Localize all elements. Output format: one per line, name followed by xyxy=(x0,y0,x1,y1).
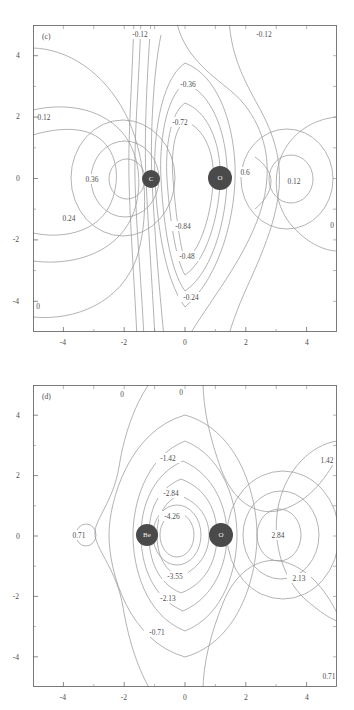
panel-c: C O -0.12 -0.12 -0.36 -0.72 -0.84 xyxy=(0,0,354,355)
figure-container: C O -0.12 -0.12 -0.36 -0.72 -0.84 xyxy=(0,0,354,710)
y-tick-label: 4 xyxy=(16,411,20,420)
x-tick-label: 2 xyxy=(244,338,248,347)
y-tick-label: 0 xyxy=(16,174,20,183)
x-tick-label: 2 xyxy=(244,693,248,702)
x-tick-label: -4 xyxy=(60,338,67,347)
panel-label: (d) xyxy=(42,392,51,401)
y-tick-label: 0 xyxy=(16,532,20,541)
x-tick-label: 0 xyxy=(183,693,187,702)
panel-label: (c) xyxy=(42,32,51,41)
y-tick-label: 4 xyxy=(16,51,20,60)
panel-c-overlay: (c) 4 2 0 -2 -4 -4 -2 0 2 4 xyxy=(0,0,354,355)
y-tick-label: 2 xyxy=(16,471,20,480)
y-tick-label: -2 xyxy=(13,592,20,601)
y-tick-label: -4 xyxy=(13,297,20,306)
x-tick-label: 4 xyxy=(305,338,309,347)
x-tick-label: 0 xyxy=(183,338,187,347)
x-tick-label: -4 xyxy=(60,693,67,702)
y-tick-label: -2 xyxy=(13,235,20,244)
x-tick-label: 4 xyxy=(305,693,309,702)
panel-d: Be O 0 0 -1.42 -2.84 -4.26 xyxy=(0,355,354,710)
y-tick-label: 2 xyxy=(16,112,20,121)
x-tick-label: -2 xyxy=(121,338,128,347)
x-tick-label: -2 xyxy=(121,693,128,702)
y-tick-label: -4 xyxy=(13,653,20,662)
panel-d-overlay: (d) 4 2 0 -2 -4 -4 -2 0 2 4 xyxy=(0,355,354,710)
